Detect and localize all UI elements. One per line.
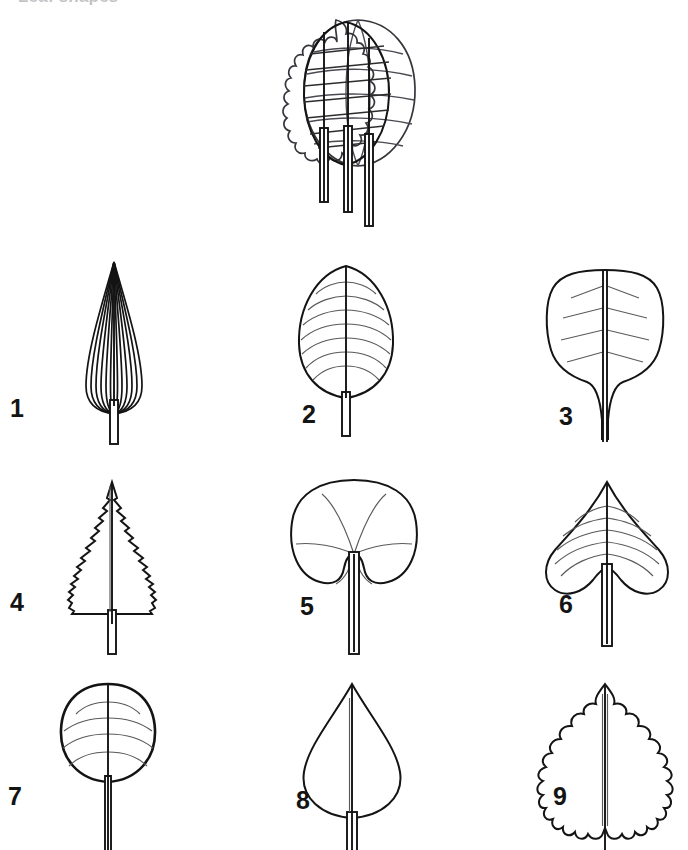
- specimen-7-number: 7: [8, 784, 22, 809]
- specimen-6: 6: [459, 472, 688, 668]
- leaf-shapes-plate: Leaf shapes: [0, 0, 688, 850]
- specimen-3-number: 3: [559, 404, 573, 429]
- specimen-4: 4: [6, 472, 235, 668]
- specimen-2: 2: [236, 252, 465, 448]
- page-title: Leaf shapes: [18, 0, 118, 7]
- specimen-4-number: 4: [10, 590, 24, 615]
- specimen-8-number: 8: [296, 788, 310, 813]
- specimen-9-number: 9: [553, 784, 567, 809]
- specimen-1: 1: [6, 252, 235, 448]
- specimen-7: 7: [6, 676, 235, 850]
- specimen-5: 5: [236, 472, 465, 668]
- specimen-6-number: 6: [559, 592, 573, 617]
- specimen-8: 8: [236, 676, 465, 850]
- specimen-5-number: 5: [300, 594, 314, 619]
- specimen-2-number: 2: [302, 402, 316, 427]
- specimen-1-number: 1: [10, 396, 24, 421]
- composite-overlay-figure: [262, 8, 448, 234]
- specimen-9: 9: [459, 676, 688, 850]
- specimen-3: 3: [459, 252, 688, 448]
